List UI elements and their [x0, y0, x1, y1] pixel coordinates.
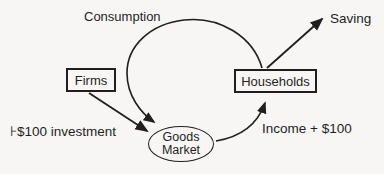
income-label: Income + $100 — [262, 121, 352, 136]
consumption-label: Consumption — [84, 9, 161, 24]
households-label: Households — [241, 74, 310, 89]
goods-market-label-line2: Market — [162, 144, 200, 158]
firms-label: Firms — [75, 73, 108, 88]
goods-market-label-line1: Goods — [163, 131, 200, 145]
node-households: Households — [234, 69, 317, 93]
node-goods-market: Goods Market — [148, 126, 214, 162]
diagram-canvas: Consumption Saving Firms Households Good… — [0, 0, 384, 174]
investment-label: ⊦$100 investment — [10, 124, 116, 139]
node-firms: Firms — [66, 68, 116, 92]
goods-to-households-arrow — [216, 103, 265, 141]
saving-arrow — [267, 19, 322, 68]
saving-label: Saving — [330, 11, 371, 26]
